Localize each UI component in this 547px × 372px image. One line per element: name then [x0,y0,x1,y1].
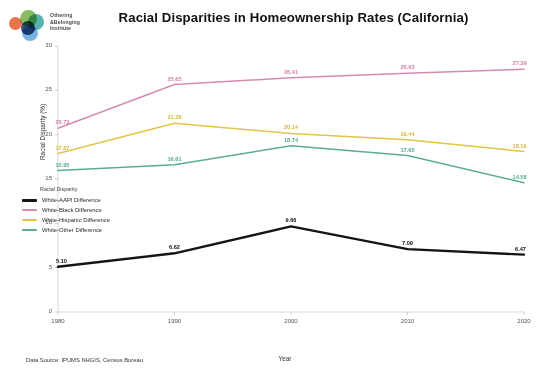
legend-swatch-icon [22,209,37,211]
y-axis-tick-label: 5 [30,264,52,270]
series-line [58,226,524,266]
legend-swatch-icon [22,229,37,231]
legend-title: Racial Disparity [40,186,110,192]
x-axis-tick-label: 2020 [504,318,544,324]
legend-item[interactable]: White-Hispanic Difference [22,215,110,225]
legend-swatch-icon [22,219,37,221]
data-point-label: 15.95 [55,162,69,168]
data-point-label: 20.14 [284,124,298,130]
data-point-label: 26.41 [284,69,298,75]
data-point-label: 21.28 [168,114,182,120]
x-axis-tick-label: 2000 [271,318,311,324]
y-axis-tick-label: 30 [30,42,52,48]
legend-item[interactable]: White-Black Difference [22,205,110,215]
legend-label: White-Other Difference [42,227,102,233]
legend-label: White-Hispanic Difference [42,217,110,223]
x-axis-tick-label: 2010 [388,318,428,324]
data-point-label: 19.44 [401,131,415,137]
data-point-label: 27.39 [513,60,527,66]
data-point-label: 26.93 [401,64,415,70]
data-point-label: 18.10 [513,143,527,149]
data-point-label: 6.62 [169,244,180,250]
data-point-label: 17.65 [401,147,415,153]
data-point-label: 25.65 [168,76,182,82]
legend-item[interactable]: White-Other Difference [22,225,110,235]
y-axis-tick-label: 0 [30,308,52,314]
y-axis-tick-label: 20 [30,131,52,137]
x-axis-tick-label: 1990 [155,318,195,324]
legend-rows: White-AAPI DifferenceWhite-Black Differe… [22,195,110,235]
data-point-label: 20.73 [55,119,69,125]
series-line [58,69,524,128]
y-axis-tick-label: 15 [30,175,52,181]
x-axis-tick-label: 1980 [38,318,78,324]
y-axis-tick-label: 25 [30,86,52,92]
legend-swatch-icon [22,199,37,202]
data-point-label: 6.47 [515,246,526,252]
logo-line-3: Institute [50,25,100,32]
plot-area: Racial Disparity (%) Year 05101520253019… [42,40,528,342]
data-point-label: 18.74 [284,137,298,143]
legend-label: White-Black Difference [42,207,102,213]
data-point-label: 17.87 [55,145,69,151]
data-point-label: 7.09 [402,240,413,246]
legend-item[interactable]: White-AAPI Difference [22,195,110,205]
data-point-label: 16.61 [168,156,182,162]
legend-label: White-AAPI Difference [42,197,101,203]
chart-canvas [42,40,528,342]
chart-title: Racial Disparities in Homeownership Rate… [0,10,547,25]
series-line [58,146,524,183]
chart-legend: Racial Disparity White-AAPI DifferenceWh… [22,186,110,235]
data-source-note: Data Source: IPUMS NHGIS, Census Bureau [26,357,143,363]
data-point-label: 5.10 [56,258,67,264]
data-point-label: 14.58 [513,174,527,180]
chart-figure: Othering &Belonging Institute Racial Dis… [0,0,547,372]
data-point-label: 9.66 [286,217,297,223]
